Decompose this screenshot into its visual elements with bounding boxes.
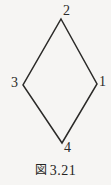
- vertex-label-4: 4: [64, 141, 71, 155]
- vertex-label-2: 2: [63, 4, 70, 18]
- vertex-label-3: 3: [11, 76, 18, 90]
- caption-kanji-label: 図: [35, 161, 47, 179]
- figure-container: 2 1 4 3 図3.21: [0, 0, 111, 185]
- caption-number-label: 3.21: [50, 162, 77, 180]
- vertex-label-1: 1: [99, 75, 106, 89]
- figure-caption: 図3.21: [0, 161, 111, 180]
- rhombus-diagram: 2 1 4 3: [0, 0, 111, 160]
- rhombus-outline: [23, 19, 97, 143]
